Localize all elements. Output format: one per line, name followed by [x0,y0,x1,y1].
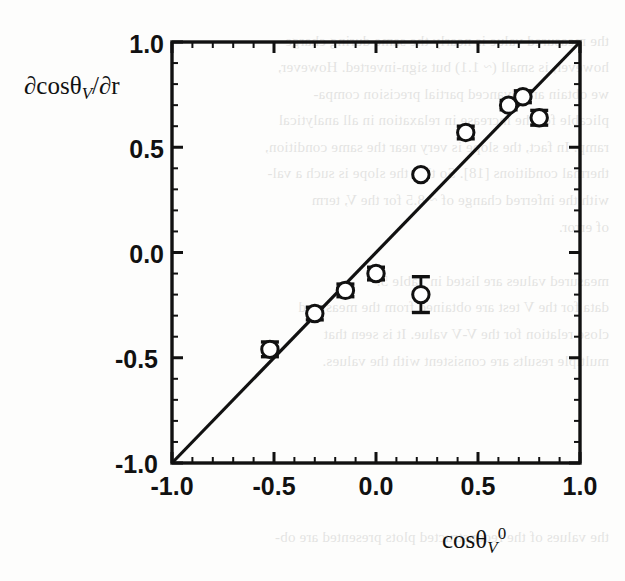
data-point-marker [413,166,429,182]
data-point-marker [262,341,278,357]
data-point-marker [413,286,429,302]
scanned-page: the measured value is nearly the same du… [0,0,625,581]
figure-scatter-plot: ∂cosθV/∂r cosθV0 1.0 0.5 0.0 -0.5 -1.0 -… [0,0,625,581]
data-point-marker [337,282,353,298]
data-point-marker [531,110,547,126]
data-point-marker [458,124,474,140]
data-point-marker [307,305,323,321]
plot-canvas [0,0,625,581]
data-point-marker [515,89,531,105]
data-point-marker [368,265,384,281]
